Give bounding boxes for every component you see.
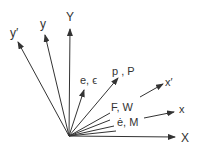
label-X: X — [181, 131, 189, 145]
label-F-W: F, W — [111, 101, 134, 113]
vector-diagram: Y y y′ e, ϵ p , P x′ F, W ė, M x X — [0, 0, 201, 150]
x-prime-axis-arrow — [140, 84, 163, 97]
label-edot-M: ė, M — [117, 116, 138, 128]
label-x: x — [179, 103, 185, 115]
x-axis-arrow — [144, 112, 174, 118]
label-y: y — [40, 17, 46, 31]
Y-axis-arrow — [69, 29, 70, 136]
label-x-prime: x′ — [165, 76, 173, 88]
label-p-P: p , P — [112, 65, 135, 77]
label-e-epsilon: e, ϵ — [80, 74, 97, 86]
X-axis-arrow — [69, 136, 175, 137]
label-y-prime: y′ — [10, 26, 19, 40]
y-prime-axis-arrow — [18, 42, 69, 136]
label-Y: Y — [66, 10, 74, 24]
y-axis-arrow — [45, 35, 69, 136]
